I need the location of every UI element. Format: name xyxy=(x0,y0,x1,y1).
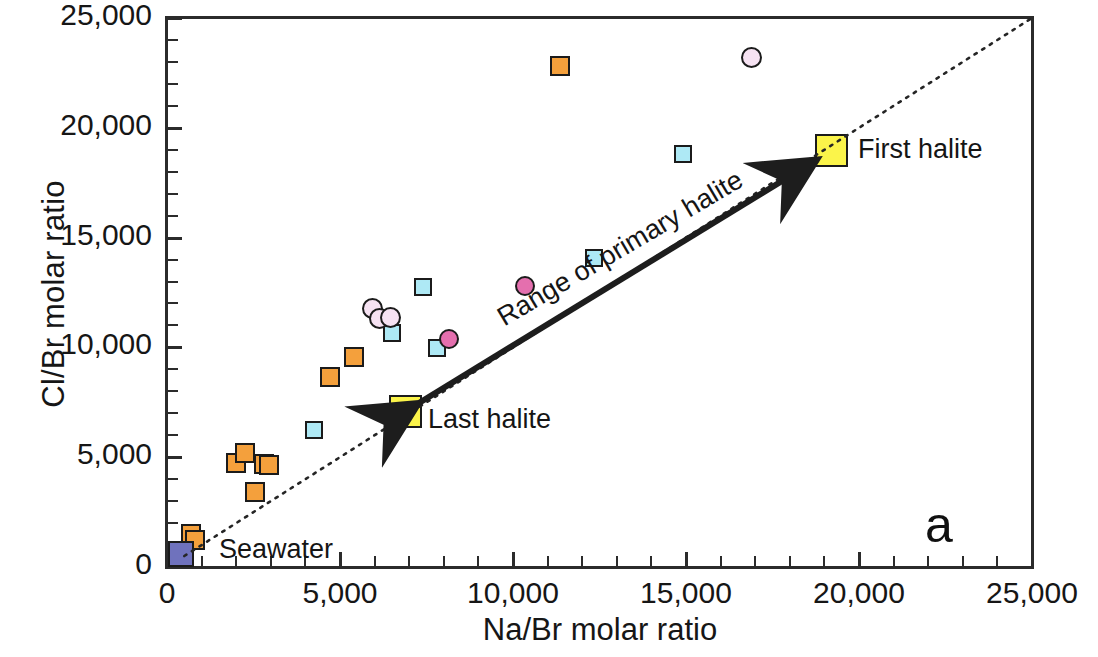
x-minor-tick xyxy=(408,556,410,567)
y-minor-tick xyxy=(167,478,178,480)
x-major-tick xyxy=(858,552,861,567)
y-tick-label: 5,000 xyxy=(2,437,152,471)
data-point-orange-square xyxy=(550,56,570,76)
x-minor-tick xyxy=(754,556,756,567)
first-halite-label: First halite xyxy=(858,134,983,165)
x-minor-tick xyxy=(477,556,479,567)
data-point-pink-open-circle xyxy=(380,307,401,328)
data-point-seawater-square xyxy=(168,541,194,567)
x-minor-tick xyxy=(374,556,376,567)
x-tick-label: 5,000 xyxy=(240,576,440,610)
data-point-orange-square xyxy=(259,455,279,475)
x-minor-tick xyxy=(581,556,583,567)
y-tick-label: 20,000 xyxy=(2,108,152,142)
x-minor-tick xyxy=(443,556,445,567)
data-point-cyan-square xyxy=(414,278,432,296)
last-halite-label: Last halite xyxy=(428,404,551,435)
y-major-tick xyxy=(167,237,182,240)
axis-spine-top xyxy=(165,16,1034,19)
x-axis-title: Na/Br molar ratio xyxy=(167,612,1033,648)
data-point-orange-square xyxy=(320,367,340,387)
x-minor-tick xyxy=(616,556,618,567)
y-minor-tick xyxy=(167,215,178,217)
x-major-tick xyxy=(512,552,515,567)
y-minor-tick xyxy=(167,83,178,85)
data-point-cyan-square xyxy=(305,421,323,439)
y-tick-label: 15,000 xyxy=(2,218,152,252)
x-minor-tick xyxy=(962,556,964,567)
data-point-halite-endmember-square xyxy=(815,134,848,167)
y-minor-tick xyxy=(167,193,178,195)
y-minor-tick xyxy=(167,302,178,304)
x-tick-label: 10,000 xyxy=(413,576,613,610)
x-major-tick xyxy=(1031,552,1034,567)
x-minor-tick xyxy=(720,556,722,567)
data-point-orange-square xyxy=(245,482,265,502)
y-minor-tick xyxy=(167,412,178,414)
y-major-tick xyxy=(167,17,182,20)
y-minor-tick xyxy=(167,281,178,283)
y-minor-tick xyxy=(167,390,178,392)
y-minor-tick xyxy=(167,39,178,41)
x-minor-tick xyxy=(893,556,895,567)
data-point-halite-endmember-square xyxy=(389,395,422,428)
x-tick-label: 0 xyxy=(67,576,267,610)
data-point-pink-open-circle xyxy=(741,47,762,68)
y-minor-tick xyxy=(167,149,178,151)
y-major-tick xyxy=(167,456,182,459)
y-minor-tick xyxy=(167,324,178,326)
y-minor-tick xyxy=(167,105,178,107)
x-major-tick xyxy=(339,552,342,567)
x-minor-tick xyxy=(927,556,929,567)
y-minor-tick xyxy=(167,434,178,436)
axis-spine-right xyxy=(1031,16,1034,569)
x-minor-tick xyxy=(823,556,825,567)
y-minor-tick xyxy=(167,259,178,261)
x-minor-tick xyxy=(789,556,791,567)
y-tick-label: 10,000 xyxy=(2,327,152,361)
data-point-orange-square xyxy=(344,347,364,367)
x-minor-tick xyxy=(650,556,652,567)
x-tick-label: 20,000 xyxy=(759,576,959,610)
y-minor-tick xyxy=(167,171,178,173)
panel-label: a xyxy=(925,496,953,554)
data-point-orange-square xyxy=(235,443,255,463)
figure-panel-a: Cl/Br molar ratio Na/Br molar ratio 05,0… xyxy=(0,0,1098,657)
x-tick-label: 25,000 xyxy=(932,576,1098,610)
plot-area xyxy=(167,18,1032,567)
x-tick-label: 15,000 xyxy=(586,576,786,610)
y-major-tick xyxy=(167,346,182,349)
data-point-cyan-square xyxy=(674,145,692,163)
y-tick-label: 25,000 xyxy=(2,0,152,32)
y-minor-tick xyxy=(167,500,178,502)
x-minor-tick xyxy=(996,556,998,567)
axis-spine-left xyxy=(165,16,168,569)
x-minor-tick xyxy=(547,556,549,567)
y-minor-tick xyxy=(167,522,178,524)
x-minor-tick xyxy=(201,556,203,567)
seawater-label: Seawater xyxy=(219,534,333,565)
data-point-pink-filled-circle xyxy=(439,329,459,349)
x-major-tick xyxy=(685,552,688,567)
axis-spine-bottom xyxy=(165,566,1034,569)
y-major-tick xyxy=(167,127,182,130)
y-minor-tick xyxy=(167,61,178,63)
y-minor-tick xyxy=(167,368,178,370)
